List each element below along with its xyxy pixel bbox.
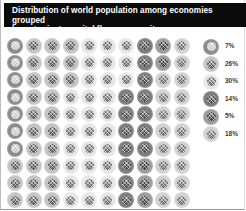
legend-swatch-icon: [202, 91, 220, 108]
dot-core: [159, 196, 168, 205]
dot-core: [85, 179, 94, 188]
waffle-dot: [136, 54, 154, 71]
waffle-dot: [62, 192, 80, 209]
dot-core: [177, 93, 186, 102]
waffle-dot: [117, 54, 135, 71]
dot-core: [103, 93, 112, 102]
dot-core: [159, 144, 168, 153]
chart-title: Distribution of world population among e…: [12, 6, 242, 35]
dot-core: [11, 58, 20, 67]
dot-core: [140, 127, 149, 136]
waffle-dot: [43, 37, 61, 54]
waffle-dot: [43, 71, 61, 88]
legend-swatch-icon: [202, 56, 220, 73]
waffle-dot: [173, 54, 191, 71]
waffle-dot: [80, 157, 98, 174]
waffle-dot: [25, 157, 43, 174]
dot-core: [122, 196, 131, 205]
waffle-dot: [62, 37, 80, 54]
dot-core: [48, 179, 57, 188]
waffle-dot: [117, 89, 135, 106]
dot-core: [29, 93, 38, 102]
waffle-dot: [25, 175, 43, 192]
waffle-dot: [6, 192, 24, 209]
dot-core: [140, 41, 149, 50]
dot-core: [85, 161, 94, 170]
waffle-dot: [80, 123, 98, 140]
dot-core: [177, 179, 186, 188]
waffle-dot: [154, 54, 172, 71]
dot-core: [11, 196, 20, 205]
waffle-dot: [154, 89, 172, 106]
waffle-dot: [80, 106, 98, 123]
dot-core: [85, 196, 94, 205]
waffle-dot: [6, 71, 24, 88]
waffle-dot: [62, 71, 80, 88]
waffle-dot: [136, 175, 154, 192]
waffle-dot: [99, 89, 117, 106]
legend-label: 5%: [225, 112, 234, 119]
waffle-dot: [25, 123, 43, 140]
waffle-dot: [80, 37, 98, 54]
waffle-dot: [154, 157, 172, 174]
dot-core: [11, 179, 20, 188]
dot-core: [103, 110, 112, 119]
waffle-dot: [80, 192, 98, 209]
dot-core: [11, 161, 20, 170]
waffle-dot: [173, 157, 191, 174]
waffle-dot: [117, 123, 135, 140]
waffle-dot: [136, 192, 154, 209]
waffle-dot: [154, 106, 172, 123]
legend-label: 30%: [225, 77, 238, 84]
legend-label: 26%: [225, 60, 238, 67]
waffle-dot: [117, 157, 135, 174]
waffle-dot: [154, 192, 172, 209]
waffle-dot: [117, 175, 135, 192]
dot-core: [11, 127, 20, 136]
dot-core: [177, 196, 186, 205]
dot-core: [48, 161, 57, 170]
waffle-dot: [43, 123, 61, 140]
waffle-dot: [117, 37, 135, 54]
dot-core: [48, 58, 57, 67]
waffle-dot: [6, 175, 24, 192]
dot-core: [159, 127, 168, 136]
dot-core: [177, 41, 186, 50]
dot-core: [11, 41, 20, 50]
waffle-dot: [62, 175, 80, 192]
waffle-dot: [117, 140, 135, 157]
waffle-dot: [43, 140, 61, 157]
waffle-dot: [99, 71, 117, 88]
waffle-dot: [43, 106, 61, 123]
dot-core: [85, 41, 94, 50]
waffle-dot: [99, 123, 117, 140]
dot-core: [48, 93, 57, 102]
dot-core: [66, 110, 75, 119]
waffle-dot: [25, 37, 43, 54]
legend-label: 14%: [225, 95, 238, 102]
dot-core: [85, 144, 94, 153]
waffle-dot: [154, 140, 172, 157]
waffle-dot: [6, 54, 24, 71]
waffle-dot: [117, 106, 135, 123]
legend-item: 7%: [200, 38, 245, 56]
waffle-dot: [99, 157, 117, 174]
waffle-dot: [62, 140, 80, 157]
waffle-dot: [173, 37, 191, 54]
waffle-dot: [62, 123, 80, 140]
dot-core: [177, 127, 186, 136]
waffle-dot: [154, 37, 172, 54]
waffle-dot: [117, 192, 135, 209]
dot-core: [122, 58, 131, 67]
dot-core: [85, 93, 94, 102]
legend-item: 18%: [200, 126, 245, 144]
waffle-dot: [6, 37, 24, 54]
chart-title-line-2: by net private capital flows per capita: [12, 25, 242, 35]
waffle-dot: [6, 157, 24, 174]
dot-core: [29, 41, 38, 50]
waffle-dot: [6, 89, 24, 106]
dot-core: [66, 93, 75, 102]
legend-item: 30%: [200, 73, 245, 91]
dot-core: [103, 41, 112, 50]
waffle-dot: [62, 157, 80, 174]
